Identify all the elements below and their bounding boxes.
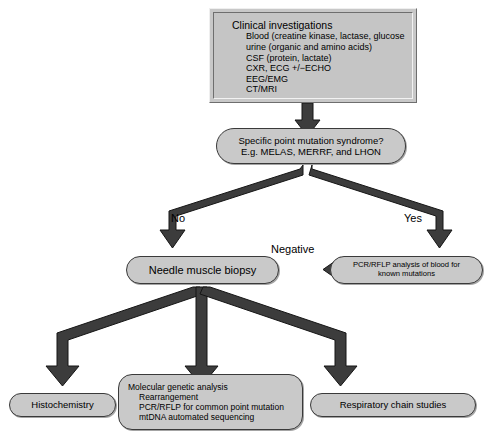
- molecular-genetic-line-3: mtDNA automated sequencing: [128, 412, 284, 422]
- clinical-investigations-line-5: EEG/EMG: [232, 74, 404, 85]
- pcr-rflp-blood-line-2: known mutations: [353, 270, 460, 279]
- edge-label-no: No: [171, 212, 185, 224]
- clinical-investigations-line-2: urine (organic and amino acids): [232, 42, 404, 53]
- clinical-investigations-heading: Clinical investigations: [232, 19, 404, 31]
- node-needle-muscle-biopsy: Needle muscle biopsy: [126, 256, 279, 284]
- histochemistry-label: Histochemistry: [31, 399, 93, 410]
- point-mutation-line-1: Specific point mutation syndrome?: [238, 135, 383, 146]
- node-pcr-rflp-blood: PCR/RFLP analysis of blood for known mut…: [330, 256, 483, 284]
- edge-label-yes: Yes: [404, 212, 422, 224]
- respiratory-chain-studies-label: Respiratory chain studies: [340, 399, 447, 410]
- edge-label-negative: Negative: [271, 243, 314, 255]
- flowchart-canvas: No Yes Negative Clinical investigations …: [0, 0, 486, 433]
- node-respiratory-chain-studies: Respiratory chain studies: [310, 393, 476, 417]
- molecular-genetic-line-1: Rearrangement: [128, 392, 284, 402]
- node-point-mutation-syndrome: Specific point mutation syndrome? E.g. M…: [216, 128, 406, 164]
- clinical-investigations-line-3: CSF (protein, lactate): [232, 53, 404, 64]
- arrow-biopsy-to-histochemistry: [46, 287, 203, 386]
- clinical-investigations-line-1: Blood (creatine kinase, lactase, glucose: [232, 31, 404, 42]
- arrow-point-mutation-to-no-branch: [160, 165, 303, 248]
- arrow-biopsy-to-molecular-genetic: [185, 287, 218, 386]
- clinical-investigations-line-4: CXR, ECG +/−ECHO: [232, 63, 404, 74]
- molecular-genetic-line-2: PCR/RFLP for common point mutation: [128, 402, 284, 412]
- node-molecular-genetic-analysis: Molecular genetic analysis Rearrangement…: [118, 374, 303, 430]
- point-mutation-line-2: E.g. MELAS, MERRF, and LHON: [238, 146, 383, 157]
- clinical-investigations-line-6: CT/MRI: [232, 84, 404, 95]
- molecular-genetic-heading: Molecular genetic analysis: [128, 382, 284, 392]
- needle-muscle-biopsy-label: Needle muscle biopsy: [149, 264, 257, 277]
- node-histochemistry: Histochemistry: [9, 393, 116, 417]
- arrow-biopsy-to-respiratory-chain: [200, 287, 357, 386]
- node-clinical-investigations: Clinical investigations Blood (creatine …: [209, 8, 417, 103]
- arrow-point-mutation-to-yes-branch: [309, 165, 452, 248]
